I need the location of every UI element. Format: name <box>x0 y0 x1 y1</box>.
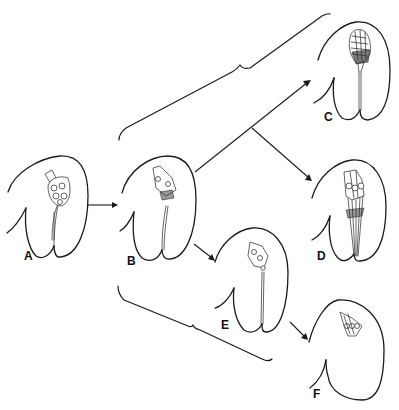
label-e: E <box>221 318 229 332</box>
arrow-b-to-c <box>195 80 311 172</box>
arrow-b-to-d <box>252 128 312 181</box>
stage-d-figure: D <box>312 160 386 263</box>
label-a: A <box>24 249 33 263</box>
arrow-b-to-e <box>194 244 215 261</box>
arrow-e-to-f <box>290 322 308 340</box>
lower-brace <box>118 286 272 361</box>
arrow-a-to-b <box>88 202 118 208</box>
stage-f-figure: F <box>309 300 384 401</box>
diagram-canvas: A B <box>0 0 399 410</box>
label-c: C <box>324 110 333 124</box>
stage-a-figure: A <box>7 156 88 263</box>
stage-e-figure: E <box>215 228 288 332</box>
stage-c-figure: C <box>314 22 390 124</box>
label-d: D <box>317 249 326 263</box>
stage-b-figure: B <box>120 156 196 268</box>
upper-brace <box>119 14 330 140</box>
label-b: B <box>127 254 136 268</box>
label-f: F <box>313 387 320 401</box>
